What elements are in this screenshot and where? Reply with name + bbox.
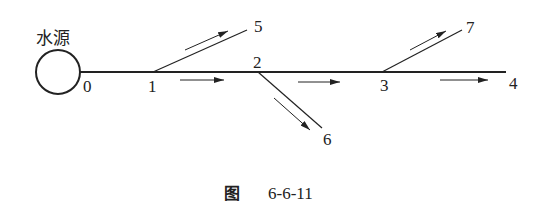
caption-prefix: 图: [224, 184, 240, 201]
node-label-0: 0: [83, 77, 92, 96]
node-label-5: 5: [254, 17, 263, 36]
node-label-3: 3: [380, 76, 389, 95]
branch-pipe-3-7: [382, 30, 462, 72]
pipe-network-diagram: 水源 0 1 2 3 4 5 6 7 图 6-6-11: [0, 0, 538, 201]
flow-arrow-1-5: [185, 31, 228, 50]
caption-number: 6-6-11: [268, 184, 313, 201]
flow-arrow-3-7: [410, 31, 446, 50]
water-source-label: 水源: [36, 28, 70, 48]
water-source-circle-icon: [36, 50, 80, 94]
node-label-7: 7: [466, 18, 475, 37]
node-label-1: 1: [148, 77, 157, 96]
branch-pipe-2-6: [258, 72, 322, 128]
flow-arrow-2-6: [274, 98, 310, 130]
figure-caption: 图 6-6-11: [224, 184, 313, 201]
branch-pipe-1-5: [153, 30, 247, 72]
node-label-6: 6: [323, 130, 332, 149]
water-source: 水源: [36, 28, 80, 94]
node-label-2: 2: [253, 53, 262, 72]
node-label-4: 4: [509, 74, 518, 93]
